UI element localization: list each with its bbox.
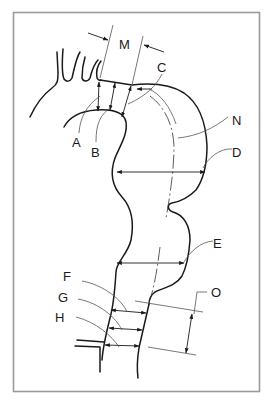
label-G: G (58, 290, 68, 305)
label-M: M (119, 37, 130, 52)
label-C: C (157, 60, 166, 75)
label-H: H (55, 310, 64, 325)
label-E: E (213, 236, 222, 251)
label-N: N (232, 113, 241, 128)
figure-frame (14, 13, 260, 392)
label-A: A (72, 135, 81, 150)
label-B: B (91, 145, 100, 160)
label-F: F (63, 269, 71, 284)
label-D: D (232, 145, 241, 160)
label-O: O (211, 285, 221, 300)
aorta-diagram: M C N A B D E F G H O (0, 0, 272, 401)
